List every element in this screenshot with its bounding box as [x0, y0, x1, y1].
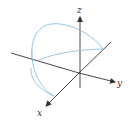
- left-vertical-curve: [32, 50, 54, 96]
- back-diagonal-line: [79, 42, 111, 73]
- x-axis: [46, 73, 79, 106]
- diagram-canvas: z y x: [0, 0, 131, 128]
- top-arc-curve: [32, 24, 103, 58]
- y-axis: [79, 73, 115, 82]
- lower-left-curve: [31, 68, 54, 96]
- y-axis-label: y: [116, 78, 123, 88]
- x-axis-label: x: [37, 108, 42, 118]
- z-axis-label: z: [76, 5, 82, 15]
- x-axis-negative: [11, 53, 79, 73]
